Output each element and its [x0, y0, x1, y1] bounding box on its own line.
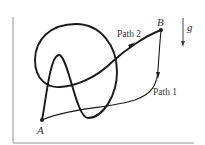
point-a-dot [40, 118, 44, 122]
path-1-label: Path 1 [153, 87, 177, 97]
path-2-curve [35, 24, 161, 120]
path-1-curve [42, 30, 161, 120]
point-a-label: A [36, 124, 44, 136]
gravity-label: g [187, 21, 193, 33]
gravity-arrow-icon [181, 41, 185, 47]
point-b-label: B [157, 16, 164, 28]
work-path-diagram: A B Path 2 Path 1 g [0, 0, 205, 145]
path-2-label: Path 2 [117, 29, 141, 39]
point-b-dot [159, 28, 163, 32]
